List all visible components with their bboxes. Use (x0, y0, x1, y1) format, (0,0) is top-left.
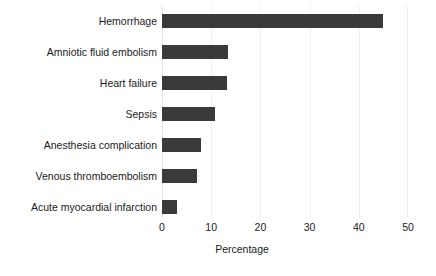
x-tick-label: 10 (205, 221, 217, 233)
category-label: Acute myocardial infarction (0, 192, 157, 223)
category-label: Sepsis (0, 99, 157, 130)
bar-chart: Hemorrhage Amniotic fluid embolism Heart… (0, 0, 436, 276)
x-tick-label: 40 (353, 221, 365, 233)
bar-venous-thromboembolism (162, 169, 197, 183)
bar-anesthesia-complication (162, 138, 201, 152)
category-axis-labels: Hemorrhage Amniotic fluid embolism Heart… (0, 6, 157, 218)
x-tick-label: 20 (255, 221, 267, 233)
x-tick-label: 30 (304, 221, 316, 233)
plot-area (162, 6, 408, 218)
category-label: Venous thromboembolism (0, 161, 157, 192)
x-tick-label: 0 (159, 221, 165, 233)
x-axis-title: Percentage (162, 243, 322, 255)
category-label: Amniotic fluid embolism (0, 37, 157, 68)
bar-sepsis (162, 107, 215, 121)
bar-heart-failure (162, 76, 227, 90)
bar-acute-myocardial-infarction (162, 200, 177, 214)
bar-amniotic-fluid-embolism (162, 45, 228, 59)
category-label: Anesthesia complication (0, 130, 157, 161)
category-label: Heart failure (0, 68, 157, 99)
bar-series (162, 6, 408, 218)
category-label: Hemorrhage (0, 6, 157, 37)
x-tick-label: 50 (402, 221, 414, 233)
x-axis: 0 10 20 30 40 50 (162, 221, 408, 237)
bar-hemorrhage (162, 14, 383, 28)
